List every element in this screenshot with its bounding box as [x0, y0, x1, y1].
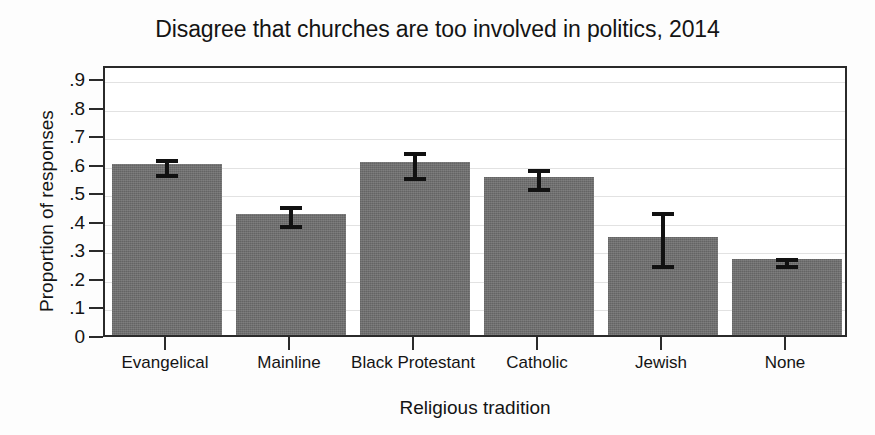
- x-axis-tick: [288, 337, 290, 350]
- x-axis-tick: [164, 337, 166, 350]
- bar: [732, 259, 842, 335]
- error-bar-cap-lower: [776, 265, 798, 269]
- x-axis-tick: [412, 337, 414, 350]
- x-axis-title: Religious tradition: [103, 397, 847, 419]
- y-axis-tick-label: .6: [51, 156, 85, 175]
- y-axis-tick: [89, 108, 103, 110]
- y-axis-tick: [89, 307, 103, 309]
- error-bar-cap-upper: [652, 212, 674, 216]
- bar: [236, 214, 346, 335]
- chart-title: Disagree that churches are too involved …: [0, 16, 875, 43]
- y-axis-tick: [89, 136, 103, 138]
- error-bar-cap-lower: [528, 188, 550, 192]
- y-axis-tick-label: .5: [51, 184, 85, 203]
- error-bar: [648, 212, 678, 269]
- error-bar-cap-upper: [156, 159, 178, 163]
- error-bar-cap-lower: [280, 225, 302, 229]
- error-bar-cap-lower: [156, 174, 178, 178]
- y-axis-tick-label: .2: [51, 270, 85, 289]
- y-axis-tick-label: 0: [51, 327, 85, 346]
- gridline: [105, 139, 845, 140]
- y-axis-tick: [89, 336, 103, 338]
- y-axis-tick-label: .4: [51, 213, 85, 232]
- x-axis-tick-label: Catholic: [506, 353, 567, 373]
- error-bar-cap-upper: [280, 206, 302, 210]
- y-axis-tick-label: .8: [51, 99, 85, 118]
- x-axis-tick: [536, 337, 538, 350]
- x-axis-tick-label: Black Protestant: [351, 353, 475, 373]
- plot-area: [103, 66, 847, 337]
- x-axis-tick-label: Evangelical: [122, 353, 209, 373]
- y-axis-tick: [89, 193, 103, 195]
- error-bar-cap-upper: [404, 152, 426, 156]
- bar: [360, 162, 470, 335]
- y-axis-tick: [89, 165, 103, 167]
- error-bar-cap-lower: [404, 177, 426, 181]
- y-axis-tick: [89, 279, 103, 281]
- gridline: [105, 111, 845, 112]
- chart-figure: Disagree that churches are too involved …: [0, 0, 875, 435]
- bar: [112, 164, 222, 335]
- error-bar: [152, 159, 182, 178]
- x-axis-tick: [660, 337, 662, 350]
- x-axis-tick: [784, 337, 786, 350]
- error-bar: [772, 258, 802, 269]
- error-bar-stem: [661, 212, 665, 269]
- y-axis-tick: [89, 250, 103, 252]
- error-bar: [276, 206, 306, 229]
- x-axis-tick-label: None: [765, 353, 806, 373]
- y-axis-tick-label: .1: [51, 298, 85, 317]
- y-axis-tick: [89, 79, 103, 81]
- y-axis-tick: [89, 222, 103, 224]
- y-axis-tick-label: .7: [51, 127, 85, 146]
- error-bar: [524, 169, 554, 192]
- bar: [484, 177, 594, 335]
- error-bar-cap-upper: [776, 258, 798, 262]
- y-axis-tick-label: .9: [51, 70, 85, 89]
- error-bar-cap-upper: [528, 169, 550, 173]
- x-axis-tick-label: Mainline: [257, 353, 320, 373]
- error-bar: [400, 152, 430, 181]
- error-bar-cap-lower: [652, 265, 674, 269]
- y-axis-tick-label: .3: [51, 241, 85, 260]
- gridline: [105, 82, 845, 83]
- x-axis-tick-label: Jewish: [635, 353, 687, 373]
